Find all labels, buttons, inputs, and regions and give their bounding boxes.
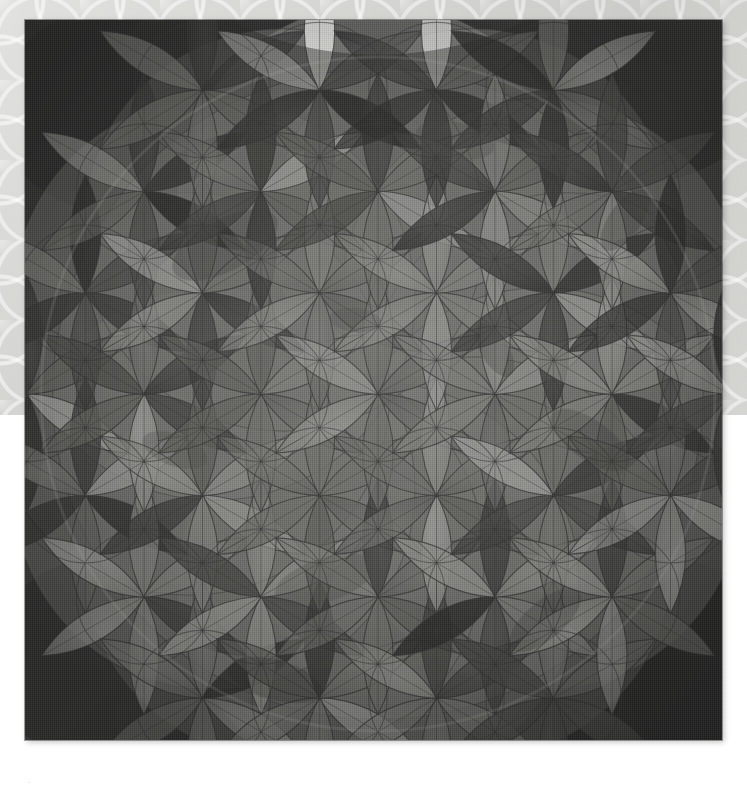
flower-of-life-svg	[25, 20, 722, 740]
flower-of-life-artwork	[25, 20, 722, 740]
artist-mark: ·	[28, 779, 31, 786]
page-root: ·	[0, 0, 747, 794]
artwork-wash	[25, 20, 722, 740]
